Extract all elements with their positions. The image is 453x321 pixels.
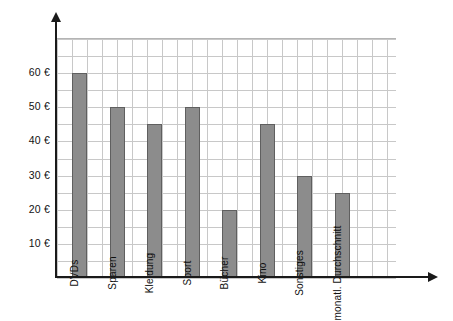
bar-label: Sport (183, 260, 193, 285)
gridline-horizontal (57, 176, 396, 177)
gridline-horizontal (57, 56, 396, 57)
bar-label: Sonstiges (295, 251, 305, 297)
gridline-horizontal (57, 107, 396, 108)
gridline-vertical (327, 39, 328, 277)
gridline-vertical (357, 39, 358, 277)
gridline-vertical (162, 39, 163, 277)
plot-area: DVDsSparenKleidungSportBücherKinoSonstig… (56, 38, 396, 277)
gridline-vertical (312, 39, 313, 277)
bar: monatl. Durchschnitt (335, 193, 350, 278)
bar: Sport (185, 107, 200, 278)
y-axis-tick-label: 40 € (0, 134, 50, 146)
gridline-horizontal (57, 141, 396, 142)
gridline-vertical (387, 39, 388, 277)
gridline-horizontal (57, 39, 396, 40)
gridline-vertical (252, 39, 253, 277)
y-axis-tick-label: 20 € (0, 203, 50, 215)
y-axis-arrow-icon (51, 12, 61, 22)
bar: Kleidung (147, 124, 162, 278)
gridline-vertical (177, 39, 178, 277)
x-axis-line (55, 276, 430, 278)
bar: Kino (260, 124, 275, 278)
gridline-horizontal (57, 159, 396, 160)
gridline-vertical (372, 39, 373, 277)
y-axis-tick-label: 30 € (0, 169, 50, 181)
gridline-horizontal (57, 124, 396, 125)
gridline-vertical (57, 39, 58, 277)
bar-label: Sparen (108, 256, 118, 289)
bar-label: Kleidung (145, 252, 155, 293)
gridline-vertical (237, 39, 238, 277)
gridline-vertical (87, 39, 88, 277)
gridline-horizontal (57, 90, 396, 91)
bar: Sonstiges (297, 176, 312, 278)
y-axis-tick-label: 50 € (0, 100, 50, 112)
bar-label: Bücher (220, 257, 230, 290)
bar-label: monatl. Durchschnitt (333, 226, 343, 321)
y-axis-tick-label: 10 € (0, 237, 50, 249)
gridline-vertical (282, 39, 283, 277)
gridline-vertical (102, 39, 103, 277)
bar: Bücher (222, 210, 237, 278)
y-axis-tick-labels: 10 €20 €30 €40 €50 €60 € (0, 0, 50, 298)
y-axis-tick-label: 60 € (0, 66, 50, 78)
bar-label: DVDs (70, 259, 80, 286)
gridline-vertical (132, 39, 133, 277)
gridline-horizontal (57, 73, 396, 74)
bar-label: Kino (258, 262, 268, 283)
gridline-vertical (207, 39, 208, 277)
y-axis-line (55, 20, 57, 278)
bar: DVDs (72, 73, 87, 278)
bar: Sparen (110, 107, 125, 278)
x-axis-arrow-icon (428, 272, 438, 282)
